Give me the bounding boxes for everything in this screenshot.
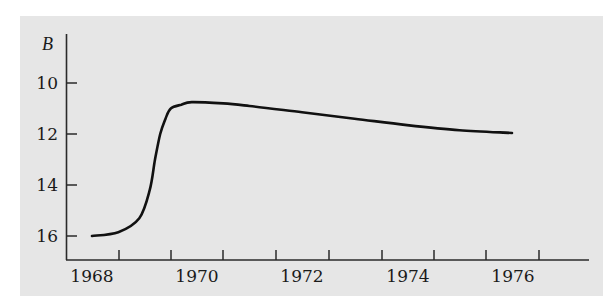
y-tick-label: 10 bbox=[36, 73, 58, 93]
series-line-B bbox=[92, 102, 512, 236]
x-ticks bbox=[119, 250, 539, 260]
y-tick-label: 12 bbox=[36, 124, 58, 144]
x-tick-label: 1968 bbox=[70, 266, 113, 286]
x-tick-label: 1970 bbox=[175, 266, 218, 286]
y-tick-label: 14 bbox=[36, 175, 58, 195]
y-tick-label: 16 bbox=[36, 226, 58, 246]
x-tick-label: 1976 bbox=[491, 266, 534, 286]
y-axis-label: B bbox=[42, 34, 53, 54]
x-tick-label: 1974 bbox=[386, 266, 429, 286]
x-tick-label: 1972 bbox=[280, 266, 323, 286]
line-chart: B 10 12 14 16 1968 1970 1972 1974 1976 bbox=[0, 0, 610, 307]
y-ticks bbox=[66, 83, 77, 236]
